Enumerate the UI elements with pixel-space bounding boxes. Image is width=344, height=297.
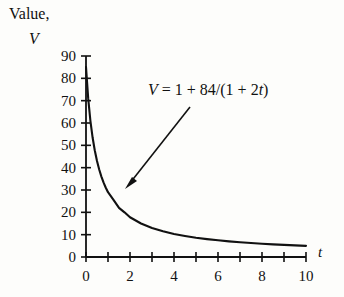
y-axis-tick-labels: 0102030405060708090 [61,48,76,265]
x-tick-label: 6 [214,268,222,284]
y-tick-label: 20 [61,204,76,220]
y-tick-label: 50 [61,137,76,153]
x-tick-label: 10 [299,268,314,284]
x-tick-label: 2 [126,268,134,284]
equation-annotation: V = 1 + 84/(1 + 2t) [148,81,268,99]
x-tick-label: 0 [82,268,90,284]
y-tick-label: 70 [61,93,76,109]
annotation-arrow [125,107,190,189]
x-axis-tick-labels: 0246810 [82,268,313,284]
x-tick-label: 4 [170,268,178,284]
y-tick-label: 80 [61,70,76,86]
y-tick-label: 90 [61,48,76,64]
y-tick-label: 0 [69,249,77,265]
y-tick-label: 10 [61,227,76,243]
chart-plot-area: 0102030405060708090 0246810 V = 1 + 84/(… [0,0,344,297]
y-tick-label: 30 [61,182,76,198]
y-tick-label: 60 [61,115,76,131]
chart-figure: Value, V t 0102030405060708090 0246810 V… [0,0,344,297]
x-tick-label: 8 [258,268,266,284]
y-tick-label: 40 [61,160,76,176]
